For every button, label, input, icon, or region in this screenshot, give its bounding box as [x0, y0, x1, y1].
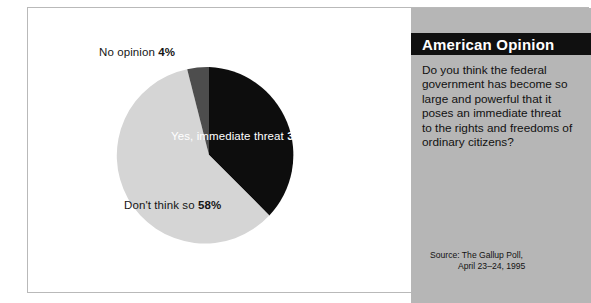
source-line-1: Source: The Gallup Poll, [430, 250, 523, 260]
american-opinion-panel: American Opinion Do you think the federa… [411, 8, 591, 303]
panel-title: American Opinion [422, 36, 554, 53]
opinion-poll-figure: No opinion 4% Yes, immediate threat 38% … [0, 0, 591, 303]
source-line-2: April 23–24, 1995 [430, 261, 590, 272]
pie-chart: No opinion 4% Yes, immediate threat 38% … [28, 8, 411, 292]
pie-label-no-opinion: No opinion 4% [99, 46, 175, 59]
panel-title-bar: American Opinion [411, 33, 591, 55]
pie-label-yes-immediate-threat: Yes, immediate threat 38% [171, 130, 311, 143]
pie-chart-svg [28, 8, 411, 292]
poll-question-text: Do you think the federal government has … [422, 63, 574, 149]
pie-label-dont-think-so: Don't think so 58% [124, 199, 221, 212]
source-citation: Source: The Gallup Poll, April 23–24, 19… [430, 250, 590, 271]
